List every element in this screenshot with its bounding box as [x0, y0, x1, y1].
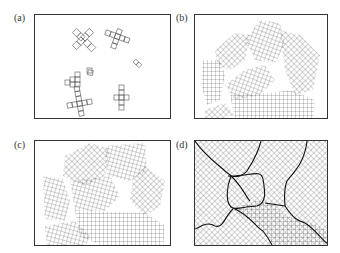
panel-d-label: (d): [176, 139, 188, 150]
grain-boundaries-illustration: [195, 141, 328, 246]
panel-a-label: (a): [14, 12, 25, 23]
growing-crystallites-illustration: [195, 15, 328, 119]
panel-c-label: (c): [14, 139, 25, 150]
impinging-crystallites-illustration: [35, 141, 171, 246]
nuclei-illustration: [35, 15, 171, 119]
panel-a: [34, 14, 171, 119]
panel-b: [194, 14, 328, 119]
panel-d: [194, 140, 328, 246]
panel-b-label: (b): [176, 12, 188, 23]
panel-c: [34, 140, 171, 246]
